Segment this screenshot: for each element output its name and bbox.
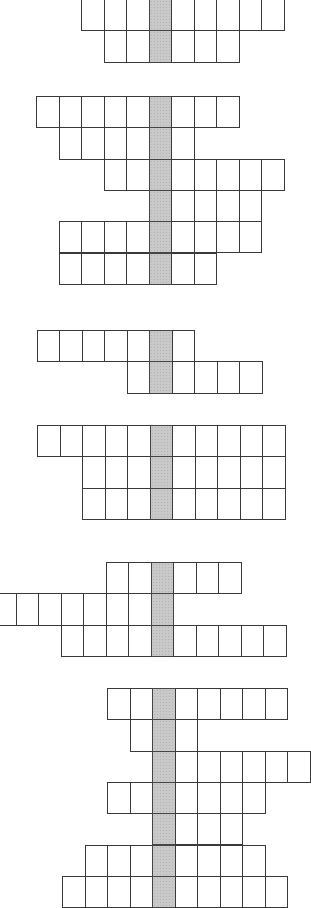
grid-cell[interactable] bbox=[171, 96, 195, 128]
grid-cell[interactable] bbox=[194, 0, 218, 31]
grid-cell[interactable] bbox=[216, 190, 240, 222]
grid-cell[interactable] bbox=[239, 190, 263, 222]
grid-cell[interactable] bbox=[104, 30, 128, 62]
grid-cell[interactable] bbox=[126, 96, 150, 128]
grid-cell[interactable] bbox=[197, 782, 221, 814]
grid-cell[interactable] bbox=[130, 688, 154, 720]
grid-cell[interactable] bbox=[175, 813, 199, 845]
grid-cell[interactable] bbox=[126, 127, 150, 159]
grid-cell[interactable] bbox=[240, 456, 264, 488]
grid-cell[interactable] bbox=[242, 751, 266, 783]
grid-cell[interactable] bbox=[175, 719, 199, 751]
grid-cell[interactable] bbox=[104, 127, 128, 159]
key-column-cell[interactable] bbox=[152, 688, 176, 720]
key-column-cell[interactable] bbox=[152, 751, 176, 783]
grid-cell[interactable] bbox=[239, 361, 263, 393]
grid-cell[interactable] bbox=[216, 221, 240, 253]
key-column-cell[interactable] bbox=[152, 719, 176, 751]
grid-cell[interactable] bbox=[196, 562, 220, 594]
grid-cell[interactable] bbox=[239, 0, 263, 31]
grid-cell[interactable] bbox=[220, 845, 244, 877]
grid-cell[interactable] bbox=[262, 425, 286, 457]
grid-cell[interactable] bbox=[60, 425, 84, 457]
grid-cell[interactable] bbox=[104, 159, 128, 191]
grid-cell[interactable] bbox=[61, 593, 85, 625]
grid-cell[interactable] bbox=[104, 221, 128, 253]
grid-cell[interactable] bbox=[83, 593, 107, 625]
grid-cell[interactable] bbox=[130, 782, 154, 814]
grid-cell[interactable] bbox=[218, 625, 242, 657]
grid-cell[interactable] bbox=[194, 190, 218, 222]
grid-cell[interactable] bbox=[126, 0, 150, 31]
grid-cell[interactable] bbox=[126, 221, 150, 253]
grid-cell[interactable] bbox=[194, 361, 218, 393]
grid-cell[interactable] bbox=[82, 330, 106, 362]
grid-cell[interactable] bbox=[59, 96, 83, 128]
grid-cell[interactable] bbox=[195, 425, 219, 457]
grid-cell[interactable] bbox=[217, 488, 241, 520]
grid-cell[interactable] bbox=[220, 782, 244, 814]
grid-cell[interactable] bbox=[82, 425, 106, 457]
grid-cell[interactable] bbox=[239, 159, 263, 191]
grid-cell[interactable] bbox=[0, 593, 17, 625]
grid-cell[interactable] bbox=[36, 96, 60, 128]
grid-cell[interactable] bbox=[216, 0, 240, 31]
grid-cell[interactable] bbox=[126, 159, 150, 191]
grid-cell[interactable] bbox=[126, 30, 150, 62]
grid-cell[interactable] bbox=[241, 625, 265, 657]
grid-cell[interactable] bbox=[194, 159, 218, 191]
grid-cell[interactable] bbox=[171, 253, 195, 285]
grid-cell[interactable] bbox=[127, 456, 151, 488]
grid-cell[interactable] bbox=[261, 159, 285, 191]
grid-cell[interactable] bbox=[216, 30, 240, 62]
grid-cell[interactable] bbox=[106, 562, 130, 594]
grid-cell[interactable] bbox=[175, 688, 199, 720]
grid-cell[interactable] bbox=[197, 813, 221, 845]
grid-cell[interactable] bbox=[171, 30, 195, 62]
key-column-cell[interactable] bbox=[150, 488, 174, 520]
grid-cell[interactable] bbox=[262, 488, 286, 520]
grid-cell[interactable] bbox=[59, 330, 83, 362]
grid-cell[interactable] bbox=[195, 488, 219, 520]
grid-cell[interactable] bbox=[105, 425, 129, 457]
grid-cell[interactable] bbox=[242, 845, 266, 877]
grid-cell[interactable] bbox=[127, 330, 151, 362]
grid-cell[interactable] bbox=[105, 488, 129, 520]
grid-cell[interactable] bbox=[104, 96, 128, 128]
grid-cell[interactable] bbox=[59, 221, 83, 253]
key-column-cell[interactable] bbox=[150, 456, 174, 488]
key-column-cell[interactable] bbox=[149, 361, 173, 393]
grid-cell[interactable] bbox=[220, 813, 244, 845]
grid-cell[interactable] bbox=[107, 688, 131, 720]
grid-cell[interactable] bbox=[220, 876, 244, 908]
grid-cell[interactable] bbox=[216, 96, 240, 128]
grid-cell[interactable] bbox=[85, 845, 109, 877]
grid-cell[interactable] bbox=[37, 425, 61, 457]
grid-cell[interactable] bbox=[197, 688, 221, 720]
grid-cell[interactable] bbox=[197, 845, 221, 877]
grid-cell[interactable] bbox=[38, 593, 62, 625]
grid-cell[interactable] bbox=[127, 361, 151, 393]
grid-cell[interactable] bbox=[59, 127, 83, 159]
grid-cell[interactable] bbox=[126, 253, 150, 285]
grid-cell[interactable] bbox=[104, 0, 128, 31]
grid-cell[interactable] bbox=[217, 456, 241, 488]
key-column-cell[interactable] bbox=[151, 625, 175, 657]
grid-cell[interactable] bbox=[82, 456, 106, 488]
grid-cell[interactable] bbox=[173, 562, 197, 594]
grid-cell[interactable] bbox=[107, 876, 131, 908]
key-column-cell[interactable] bbox=[149, 330, 173, 362]
key-column-cell[interactable] bbox=[149, 127, 173, 159]
grid-cell[interactable] bbox=[240, 488, 264, 520]
grid-cell[interactable] bbox=[59, 253, 83, 285]
grid-cell[interactable] bbox=[194, 96, 218, 128]
grid-cell[interactable] bbox=[239, 221, 263, 253]
grid-cell[interactable] bbox=[81, 0, 105, 31]
grid-cell[interactable] bbox=[171, 0, 195, 31]
grid-cell[interactable] bbox=[130, 876, 154, 908]
grid-cell[interactable] bbox=[127, 425, 151, 457]
key-column-cell[interactable] bbox=[149, 253, 173, 285]
key-column-cell[interactable] bbox=[149, 190, 173, 222]
grid-cell[interactable] bbox=[81, 221, 105, 253]
grid-cell[interactable] bbox=[107, 845, 131, 877]
